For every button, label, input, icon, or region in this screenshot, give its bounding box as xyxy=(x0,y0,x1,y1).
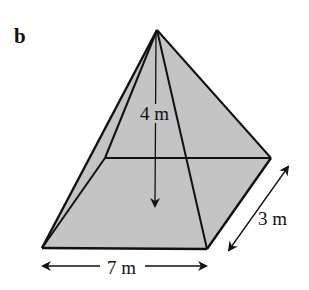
height-label: 4 m xyxy=(139,104,170,123)
pyramid-diagram xyxy=(0,0,309,290)
part-label: b xyxy=(14,26,26,47)
base-front-edge xyxy=(42,248,207,249)
depth-label: 3 m xyxy=(258,209,287,228)
pyramid-body xyxy=(42,30,271,249)
width-label: 7 m xyxy=(104,258,139,277)
pyramid-figure: b 4 m 7 m 3 m xyxy=(0,0,309,290)
